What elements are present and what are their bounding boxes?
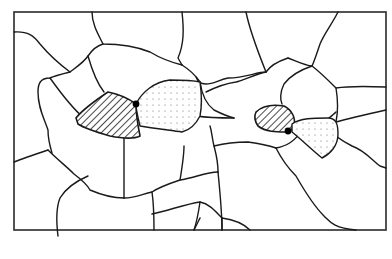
particle-left (133, 101, 140, 108)
microstructure-svg (0, 0, 392, 259)
dotted-grain-right (292, 118, 338, 158)
dotted-grain-left (136, 80, 202, 132)
grain-diagram (0, 0, 392, 259)
particle-right (285, 128, 292, 135)
hatched-grain-left (76, 92, 140, 138)
